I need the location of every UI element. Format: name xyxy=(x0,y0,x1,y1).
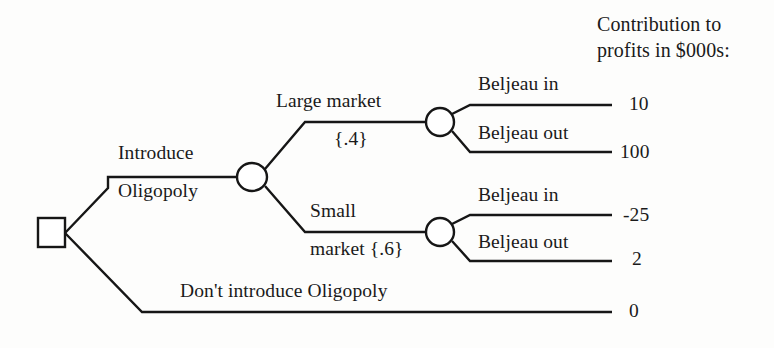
payoff-large-beljeau-out: 100 xyxy=(620,141,650,163)
decision-node xyxy=(38,218,65,247)
payoff-small-beljeau-in: -25 xyxy=(623,204,649,226)
beljeau-in-large-branch xyxy=(452,105,612,114)
large-market-label: Large market xyxy=(276,90,381,112)
large-market-chance-node xyxy=(426,108,454,136)
beljeau-in-small-label: Beljeau in xyxy=(478,184,559,206)
introduce-label-line1: Introduce xyxy=(118,142,194,164)
beljeau-out-small-label: Beljeau out xyxy=(478,231,568,253)
dont-introduce-label: Don't introduce Oligopoly xyxy=(180,280,388,302)
large-market-probability: {.4} xyxy=(334,128,368,150)
decision-tree-figure: Contribution to profits in $000s: Introd… xyxy=(0,0,774,348)
beljeau-in-small-branch xyxy=(452,215,612,224)
introduce-label-line2: Oligopoly xyxy=(118,180,198,202)
payoff-header-line2: profits in $000s: xyxy=(597,38,730,64)
payoff-header: Contribution to profits in $000s: xyxy=(597,12,730,63)
market-chance-node xyxy=(237,163,267,191)
small-market-label-line1: Small xyxy=(310,200,356,222)
beljeau-out-large-label: Beljeau out xyxy=(478,122,568,144)
small-market-chance-node xyxy=(426,218,454,246)
small-market-label-line2: market {.6} xyxy=(310,238,403,260)
payoff-large-beljeau-in: 10 xyxy=(629,93,649,115)
payoff-header-line1: Contribution to xyxy=(597,12,730,38)
beljeau-in-large-label: Beljeau in xyxy=(478,73,559,95)
payoff-no-introduce: 0 xyxy=(629,300,639,322)
payoff-small-beljeau-out: 2 xyxy=(632,248,642,270)
